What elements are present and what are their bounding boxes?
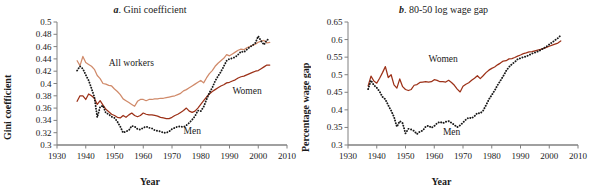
y-tick-label: 0.42: [36, 66, 52, 76]
y-tick-label: 0.46: [36, 42, 52, 52]
series-annotation-women: Women: [429, 54, 459, 64]
y-tick-label: 0.4: [40, 79, 52, 89]
series-annotation-all-workers: All workers: [109, 58, 154, 68]
y-tick-label: 0.65: [327, 17, 343, 27]
panel-a-x-axis-label: Year: [0, 176, 300, 187]
chart-panel-b: b. 80-50 log wage gap Percentage wage ga…: [296, 0, 591, 195]
x-tick-label: 2000: [540, 151, 559, 161]
y-tick-label: 0.35: [327, 122, 343, 132]
series-annotation-men: Men: [443, 127, 461, 137]
x-tick-label: 1950: [106, 151, 125, 161]
series-line-women: [368, 41, 561, 92]
y-tick-label: 0.32: [36, 128, 52, 138]
series-annotation-men: Men: [184, 126, 202, 136]
x-tick-label: 2000: [249, 151, 268, 161]
x-tick-label: 2010: [278, 151, 297, 161]
x-tick-label: 1960: [134, 151, 153, 161]
chart-panel-a: a. Gini coefficient Gini coefficient 0.3…: [0, 0, 300, 195]
x-tick-label: 1930: [339, 151, 358, 161]
y-tick-label: 0.3: [331, 140, 343, 150]
x-tick-label: 1950: [397, 151, 416, 161]
y-tick-label: 0.45: [327, 87, 343, 97]
x-tick-label: 1940: [368, 151, 387, 161]
y-tick-label: 0.6: [331, 35, 343, 45]
y-tick-label: 0.4: [331, 105, 343, 115]
x-tick-label: 1930: [48, 151, 67, 161]
y-tick-label: 0.36: [36, 103, 52, 113]
y-tick-label: 0.38: [36, 91, 52, 101]
series-annotation-women: Women: [232, 86, 262, 96]
series-line-all-workers: [77, 40, 270, 106]
y-tick-label: 0.34: [36, 115, 52, 125]
x-tick-label: 1990: [512, 151, 531, 161]
y-tick-label: 0.3: [40, 140, 52, 150]
panel-a-plot: 0.30.320.340.360.380.40.420.440.460.480.…: [0, 0, 300, 195]
x-tick-label: 2010: [569, 151, 588, 161]
panel-b-plot: 0.30.350.40.450.50.550.60.65193019401950…: [296, 0, 591, 195]
figure-container: a. Gini coefficient Gini coefficient 0.3…: [0, 0, 591, 195]
x-tick-label: 1980: [483, 151, 502, 161]
x-tick-label: 1940: [77, 151, 96, 161]
x-tick-label: 1980: [192, 151, 211, 161]
x-tick-label: 1970: [163, 151, 182, 161]
panel-b-x-axis-label: Year: [304, 176, 579, 187]
x-tick-label: 1960: [425, 151, 444, 161]
y-tick-label: 0.5: [331, 70, 343, 80]
x-tick-label: 1990: [221, 151, 240, 161]
y-tick-label: 0.48: [36, 29, 52, 39]
y-tick-label: 0.44: [36, 54, 52, 64]
y-tick-label: 0.55: [327, 52, 343, 62]
x-tick-label: 1970: [454, 151, 473, 161]
y-tick-label: 0.5: [40, 17, 52, 27]
